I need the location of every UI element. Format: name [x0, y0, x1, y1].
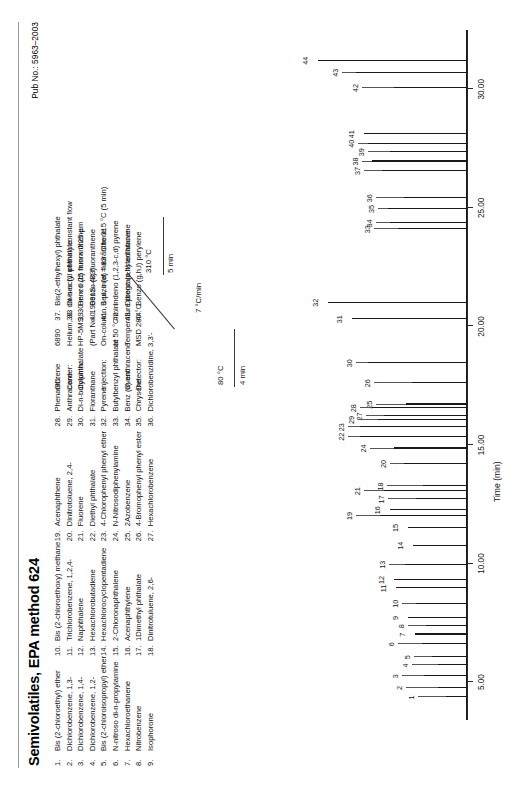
chromatogram-peak: [396, 587, 468, 588]
x-tick: [468, 681, 473, 682]
peak-label: 6: [387, 642, 396, 646]
compound-name: Nitrobenzene: [133, 706, 145, 751]
peak-label: 32: [311, 299, 320, 307]
compound-item: 25.2Azobenzene: [122, 427, 134, 542]
compound-number: 5.: [98, 751, 110, 766]
compound-name: Dinitrotuluene, 2,6-: [145, 577, 157, 641]
condition-value: MSD 280 °C: [133, 304, 145, 346]
compound-item: 13.Hexachlorobutadiene: [87, 541, 99, 656]
x-tick: [468, 207, 473, 208]
peak-leader-line: [402, 603, 416, 604]
compound-name: Bis (2-chloroisopropyl) ether: [98, 656, 110, 751]
peak-leader-line: [366, 416, 384, 417]
x-tick-label: 25.00: [477, 198, 486, 219]
peak-leader-line: [368, 151, 390, 152]
chromatogram-peak: [423, 485, 468, 486]
chromatogram-peak: [398, 228, 468, 229]
compound-item: 10.Bis (2-chloroethoxy) methane: [52, 541, 64, 656]
compound-name: Bis (2-chloroethoxy) methane: [52, 542, 64, 641]
chromatogram-peak: [388, 208, 468, 209]
condition-row: Column:HP-5MS, 30 m × 0.25 mm × 0.25 µm(…: [75, 187, 98, 390]
peak-label: 34: [365, 219, 374, 227]
compound-item: 3.Dichlorobenzene, 1,4-: [75, 656, 87, 766]
compound-name: Hexachlorobenzene: [145, 459, 157, 527]
compound-name: 4-Chlorophenyl phenyl ether: [98, 431, 110, 526]
chromatogram-peak: [368, 362, 468, 363]
peak-leader-line: [389, 564, 405, 565]
condition-row: Oven:Temperature program listed above: [122, 187, 134, 390]
compound-number: 19.: [52, 526, 64, 541]
peak-label: 17: [377, 496, 386, 504]
peak-label: 42: [351, 84, 360, 92]
peak-leader-line: [358, 143, 368, 144]
peak-label: 35: [367, 205, 376, 213]
peak-label: 26: [363, 379, 372, 387]
chromatogram-peak: [390, 509, 468, 510]
peak-label: 38: [351, 158, 360, 166]
compound-name: Acenaphthene: [52, 477, 64, 526]
x-tick-label: 5.00: [477, 674, 486, 690]
compound-item: 2.Dichlorobenzene, 1,3-: [64, 656, 76, 766]
compound-name: N-nitroso di-n-propylamine: [110, 662, 122, 751]
chromatogram-peak: [416, 498, 468, 499]
condition-value-continued: (Part No. 19091S–433): [87, 222, 99, 346]
condition-value: Temperature program listed above: [122, 230, 134, 346]
compound-number: 15.: [110, 641, 122, 656]
peak-label: 9: [391, 616, 400, 620]
chromatogram-peak: [415, 634, 468, 635]
chromatogram-peak: [405, 564, 468, 565]
compound-name: 1Dimethyl phthalate: [133, 574, 145, 641]
tp-ramp-rate-label: 7 °C/min: [194, 283, 203, 313]
peak-label: 22: [337, 433, 346, 441]
page-title: Semivolatiles, EPA method 624: [26, 558, 42, 766]
condition-label: GC:: [52, 346, 64, 390]
tp-final-hold-label: 5 min: [166, 254, 175, 273]
x-tick: [468, 444, 473, 445]
peak-leader-line: [390, 463, 404, 464]
chromatogram-peak: [364, 133, 468, 134]
peak-leader-line: [342, 72, 356, 73]
peak-leader-line: [364, 170, 382, 171]
compound-number: 34.: [122, 412, 134, 427]
compound-number: 17.: [133, 641, 145, 656]
condition-label: Oven:: [122, 346, 134, 390]
chromatogram-peak: [412, 382, 468, 383]
compound-item: 6.N-nitroso di-n-propylamine: [110, 656, 122, 766]
compound-item: 19.Acenaphthene: [52, 427, 64, 542]
peak-label: 37: [353, 167, 362, 175]
chromatogram-peak: [438, 687, 468, 688]
compound-name: N-Nitrosodiphenylamine: [110, 445, 122, 526]
publication-number: Pub No.: 5963–2003: [30, 22, 40, 99]
peak-label: 41: [347, 130, 356, 138]
chromatogram-peak: [318, 60, 468, 61]
condition-value: HP-5MS, 30 m × 0.25 mm × 0.25 µm(Part No…: [75, 222, 98, 346]
compound-number: 12.: [75, 641, 87, 656]
peak-label: 23: [337, 423, 346, 431]
peak-leader-line: [356, 515, 380, 516]
compound-number: 9.: [145, 751, 157, 766]
peak-label: 29: [347, 416, 356, 424]
compound-number: 6.: [110, 751, 122, 766]
peak-label: 14: [396, 542, 405, 550]
compound-item: 23.4-Chlorophenyl phenyl ether: [98, 427, 110, 542]
compound-name: Fluorene: [75, 496, 87, 526]
chromatogram-peak: [384, 490, 468, 491]
peak-leader-line: [412, 664, 438, 665]
x-tick: [468, 563, 473, 564]
compound-number: 36.: [145, 412, 157, 427]
chromatogram-peak: [390, 222, 468, 223]
peak-leader-line: [376, 197, 404, 198]
compound-name: Bis (2-chloroethyl) ether: [52, 670, 64, 751]
compound-name: Dinitrotoluene, 2,4-: [64, 462, 76, 526]
compound-item: 14.Hexachlorocyclopentadiene: [98, 541, 110, 656]
tp-initial-hold-label: 4 min: [238, 366, 247, 385]
x-tick-label: 30.00: [477, 79, 486, 100]
peak-label: 15: [391, 524, 400, 532]
peak-leader-line: [402, 675, 424, 676]
compound-name: Acenaphthylene: [122, 587, 134, 641]
chromatogram-peak: [390, 151, 468, 152]
compound-item: 7.Hexachloroethanene: [122, 656, 134, 766]
peak-leader-line: [348, 426, 360, 427]
compound-name: Hexachlorocyclopentadiene: [98, 548, 110, 641]
compound-number: 1.: [52, 751, 64, 766]
